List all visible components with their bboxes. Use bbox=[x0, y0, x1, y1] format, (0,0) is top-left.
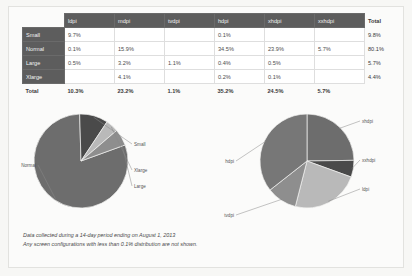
pie-label-Small: Small bbox=[134, 142, 146, 147]
cell-total-xxhdpi: 5.7% bbox=[315, 84, 365, 98]
cell-small-xhdpi bbox=[265, 28, 315, 42]
column-header-total: Total bbox=[365, 14, 394, 28]
cell-small-tvdpi bbox=[165, 28, 215, 42]
table-row: Large 0.5% 3.2% 1.1% 0.4% 0.5% 5.7% bbox=[23, 56, 394, 70]
table-header-row: ldpi mdpi tvdpi hdpi xhdpi xxhdpi Total bbox=[23, 14, 394, 28]
pie-label-tvdpi: tvdpi bbox=[224, 213, 234, 218]
cell-small-ldpi: 9.7% bbox=[65, 28, 115, 42]
cell-large-mdpi: 3.2% bbox=[115, 56, 165, 70]
column-header-ldpi: ldpi bbox=[65, 14, 115, 28]
cell-total-ldpi: 10.3% bbox=[65, 84, 115, 98]
row-label-xlarge: Xlarge bbox=[23, 70, 65, 84]
cell-total-tvdpi: 1.1% bbox=[165, 84, 215, 98]
column-header-tvdpi: tvdpi bbox=[165, 14, 215, 28]
screen-density-pie-chart: xhdpixxhdpildpitvdpihdpi bbox=[207, 103, 405, 229]
row-label-large: Large bbox=[23, 56, 65, 70]
screenshot-root: ldpi mdpi tvdpi hdpi xhdpi xxhdpi Total … bbox=[0, 0, 412, 276]
pie-slice-xhdpi bbox=[307, 114, 354, 161]
cell-total-mdpi: 23.2% bbox=[115, 84, 165, 98]
footnote-line-1: Data collected during a 14-day period en… bbox=[23, 231, 323, 240]
table-row: Normal 0.1% 15.9% 34.5% 23.9% 5.7% 80.1% bbox=[23, 42, 394, 56]
column-header-xhdpi: xhdpi bbox=[265, 14, 315, 28]
cell-normal-xxhdpi: 5.7% bbox=[315, 42, 365, 56]
column-header-hdpi: hdpi bbox=[215, 14, 265, 28]
cell-large-total: 5.7% bbox=[365, 56, 394, 70]
cell-xlarge-hdpi: 0.2% bbox=[215, 70, 265, 84]
screen-density-pie-svg: xhdpixxhdpildpitvdpihdpi bbox=[207, 103, 405, 229]
pie-label-ldpi: ldpi bbox=[362, 187, 369, 192]
cell-xlarge-xhdpi: 0.1% bbox=[265, 70, 315, 84]
column-header-mdpi: mdpi bbox=[115, 14, 165, 28]
cell-large-tvdpi: 1.1% bbox=[165, 56, 215, 70]
cell-normal-xhdpi: 23.9% bbox=[265, 42, 315, 56]
footnote: Data collected during a 14-day period en… bbox=[23, 231, 323, 248]
row-label-normal: Normal bbox=[23, 42, 65, 56]
cell-xlarge-tvdpi bbox=[165, 70, 215, 84]
cell-grand-total bbox=[365, 84, 394, 98]
cell-xlarge-total: 4.4% bbox=[365, 70, 394, 84]
pie-label-Xlarge: Xlarge bbox=[134, 168, 148, 173]
leader-line-xhdpi bbox=[339, 121, 360, 129]
cell-xlarge-mdpi: 4.1% bbox=[115, 70, 165, 84]
pie-label-Large: Large bbox=[134, 184, 146, 189]
cell-small-xxhdpi bbox=[315, 28, 365, 42]
cell-normal-tvdpi bbox=[165, 42, 215, 56]
footnote-line-2: Any screen configurations with less than… bbox=[23, 240, 323, 249]
cell-small-total: 9.8% bbox=[365, 28, 394, 42]
cell-large-xxhdpi bbox=[315, 56, 365, 70]
cell-small-hdpi: 0.1% bbox=[215, 28, 265, 42]
cell-xlarge-xxhdpi bbox=[315, 70, 365, 84]
cell-normal-hdpi: 34.5% bbox=[215, 42, 265, 56]
screen-size-pie-chart: NormalSmallXlargeLarge bbox=[9, 103, 207, 229]
cell-total-xhdpi: 24.5% bbox=[265, 84, 315, 98]
cell-normal-total: 80.1% bbox=[365, 42, 394, 56]
cell-normal-mdpi: 15.9% bbox=[115, 42, 165, 56]
charts-area: NormalSmallXlargeLarge xhdpixxhdpildpitv… bbox=[9, 103, 405, 229]
pie-label-Normal: Normal bbox=[21, 163, 36, 168]
cell-small-mdpi bbox=[115, 28, 165, 42]
cell-normal-ldpi: 0.1% bbox=[65, 42, 115, 56]
content-card: ldpi mdpi tvdpi hdpi xhdpi xxhdpi Total … bbox=[8, 6, 404, 268]
cell-large-ldpi: 0.5% bbox=[65, 56, 115, 70]
cell-large-xhdpi: 0.5% bbox=[265, 56, 315, 70]
distribution-table: ldpi mdpi tvdpi hdpi xhdpi xxhdpi Total … bbox=[22, 13, 394, 97]
leader-line-tvdpi bbox=[236, 199, 282, 215]
cell-large-hdpi: 0.4% bbox=[215, 56, 265, 70]
pie-label-hdpi: hdpi bbox=[225, 159, 234, 164]
pie-label-xhdpi: xhdpi bbox=[362, 119, 373, 124]
column-header-xxhdpi: xxhdpi bbox=[315, 14, 365, 28]
table-total-row: Total 10.3% 23.2% 1.1% 35.2% 24.5% 5.7% bbox=[23, 84, 394, 98]
row-label-total: Total bbox=[23, 84, 65, 98]
table-row: Small 9.7% 0.1% 9.8% bbox=[23, 28, 394, 42]
cell-total-hdpi: 35.2% bbox=[215, 84, 265, 98]
screen-size-pie-svg: NormalSmallXlargeLarge bbox=[9, 103, 207, 229]
cell-xlarge-ldpi bbox=[65, 70, 115, 84]
row-label-small: Small bbox=[23, 28, 65, 42]
table-row: Xlarge 4.1% 0.2% 0.1% 4.4% bbox=[23, 70, 394, 84]
pie-label-xxhdpi: xxhdpi bbox=[362, 158, 375, 163]
table-corner-cell bbox=[23, 14, 65, 28]
